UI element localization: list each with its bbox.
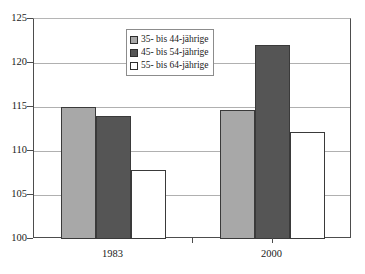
legend: 35- bis 44-jährige 45- bis 54-jährige 55…	[126, 29, 214, 76]
x-tick-mark	[272, 238, 273, 243]
y-tick-mark	[27, 150, 33, 151]
y-tick-label: 105	[0, 189, 27, 200]
y-tick-mark	[27, 62, 33, 63]
bar-2000-1	[220, 110, 255, 239]
y-tick-label: 125	[0, 13, 27, 24]
y-tick-label: 120	[0, 57, 27, 68]
legend-swatch-35-44	[130, 36, 138, 44]
legend-item: 45- bis 54-jährige	[130, 46, 209, 59]
bar-1983-2	[96, 116, 131, 239]
y-tick-mark	[27, 194, 33, 195]
bar-1983-1	[61, 107, 96, 239]
x-tick-label-2000: 2000	[232, 248, 312, 259]
y-tick-mark	[27, 18, 33, 19]
x-tick-label-1983: 1983	[73, 248, 153, 259]
legend-item: 35- bis 44-jährige	[130, 33, 209, 46]
legend-label-35-44: 35- bis 44-jährige	[141, 35, 209, 45]
y-tick-label: 115	[0, 101, 27, 112]
x-tick-mark	[192, 238, 193, 243]
legend-label-45-54: 45- bis 54-jährige	[141, 48, 209, 58]
bar-1983-3	[131, 170, 166, 239]
y-tick-label: 100	[0, 233, 27, 244]
bar-2000-3	[290, 132, 325, 239]
y-tick-mark	[27, 238, 33, 239]
legend-label-55-64: 55- bis 64-jährige	[141, 61, 209, 71]
bar-2000-2	[255, 45, 290, 239]
legend-swatch-45-54	[130, 49, 138, 57]
legend-item: 55- bis 64-jährige	[130, 59, 209, 72]
y-tick-label: 110	[0, 145, 27, 156]
bar-chart: 100105110115120125 19832000 35- bis 44-j…	[0, 0, 365, 274]
legend-swatch-55-64	[130, 62, 138, 70]
y-tick-mark	[27, 106, 33, 107]
